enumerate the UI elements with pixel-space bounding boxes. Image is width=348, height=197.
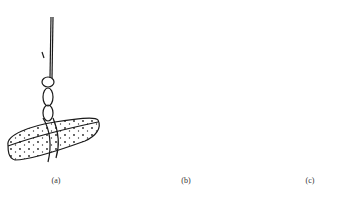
caption-b: (b) — [171, 176, 201, 185]
figure-drawing — [0, 0, 348, 197]
caption-c: (c) — [295, 176, 325, 185]
caption-a: (a) — [41, 176, 71, 185]
panel-a-stone-with-rope — [8, 17, 99, 162]
